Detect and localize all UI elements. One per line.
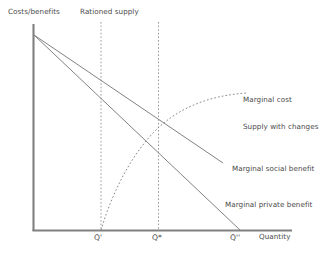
- x-tick-label-q-star: Q*: [152, 234, 162, 242]
- economics-supply-demand-chart: Costs/benefits Rationed supply Marginal …: [0, 0, 335, 254]
- supply-with-changes-label: Supply with changes: [243, 123, 318, 130]
- marginal-cost-curve: [101, 93, 247, 230]
- marginal-private-benefit-label: Marginal private benefit: [225, 201, 312, 208]
- x-axis-title: Quantity: [259, 233, 290, 240]
- y-axis-title: Costs/benefits: [8, 8, 60, 15]
- rationed-supply-label: Rationed supply: [80, 8, 139, 15]
- marginal-cost-label: Marginal cost: [243, 96, 292, 103]
- marginal-social-benefit-line: [34, 35, 223, 163]
- x-tick-label-q-prime: Q': [94, 234, 102, 242]
- marginal-social-benefit-label: Marginal social benefit: [232, 165, 314, 172]
- x-tick-label-q-double-prime: Q'': [230, 234, 240, 242]
- marginal-private-benefit-line: [34, 35, 240, 230]
